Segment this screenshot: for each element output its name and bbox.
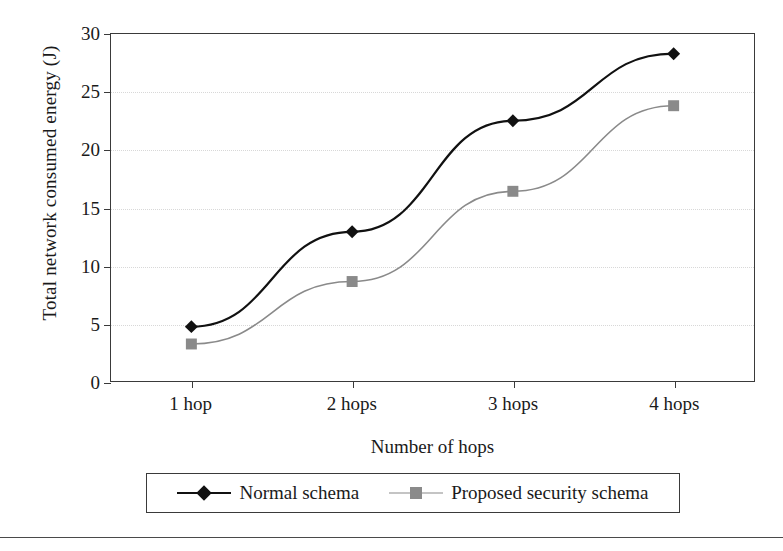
y-axis-tick-mark	[104, 34, 111, 35]
y-axis-tick-label: 30	[60, 24, 100, 43]
series-line	[191, 106, 673, 344]
y-axis-tick-mark	[104, 267, 111, 268]
y-axis-tick-label: 25	[60, 82, 100, 101]
legend-sample-square-icon	[389, 484, 443, 502]
data-point-marker	[346, 225, 359, 238]
y-axis-tick-mark	[104, 383, 111, 384]
figure-container: Total network consumed energy (J) 051015…	[0, 0, 783, 551]
data-point-marker	[186, 339, 197, 350]
series-line	[191, 54, 673, 327]
legend-entry: Proposed security schema	[389, 482, 648, 504]
legend-sample-diamond-icon	[177, 484, 231, 502]
diamond-marker-icon	[197, 485, 213, 501]
x-axis-tick-mark	[514, 381, 515, 388]
y-axis-tick-mark	[104, 92, 111, 93]
legend-label: Normal schema	[239, 482, 359, 504]
y-axis-tick-label: 0	[60, 373, 100, 392]
y-axis-tick-label: 10	[60, 256, 100, 275]
data-point-marker	[506, 114, 519, 127]
x-axis-tick-label: 3 hops	[488, 393, 538, 415]
x-axis-tick-labels: 1 hop2 hops3 hops4 hops	[110, 393, 755, 423]
y-axis-tick-label: 5	[60, 314, 100, 333]
y-axis-tick-mark	[104, 150, 111, 151]
x-axis-tick-label: 1 hop	[169, 393, 212, 415]
x-axis-tick-mark	[353, 381, 354, 388]
x-axis-tick-mark	[675, 381, 676, 388]
square-marker-icon	[410, 487, 422, 499]
legend: Normal schemaProposed security schema	[146, 473, 680, 513]
legend-entry: Normal schema	[177, 482, 359, 504]
y-axis-tick-mark	[104, 325, 111, 326]
y-axis-tick-label: 15	[60, 198, 100, 217]
data-point-marker	[668, 100, 679, 111]
data-point-marker	[185, 320, 198, 333]
data-point-marker	[347, 276, 358, 287]
data-point-marker	[507, 186, 518, 197]
x-axis-tick-label: 4 hops	[649, 393, 699, 415]
legend-label: Proposed security schema	[451, 482, 648, 504]
y-axis-tick-mark	[104, 209, 111, 210]
x-axis-tick-mark	[192, 381, 193, 388]
y-axis-tick-label: 20	[60, 140, 100, 159]
series-plot	[111, 34, 754, 381]
x-axis-title: Number of hops	[110, 436, 755, 458]
page-divider-rule	[0, 537, 783, 538]
plot-area	[110, 33, 755, 382]
y-axis-tick-labels: 051015202530	[52, 0, 100, 551]
x-axis-tick-label: 2 hops	[327, 393, 377, 415]
data-point-marker	[667, 47, 680, 60]
